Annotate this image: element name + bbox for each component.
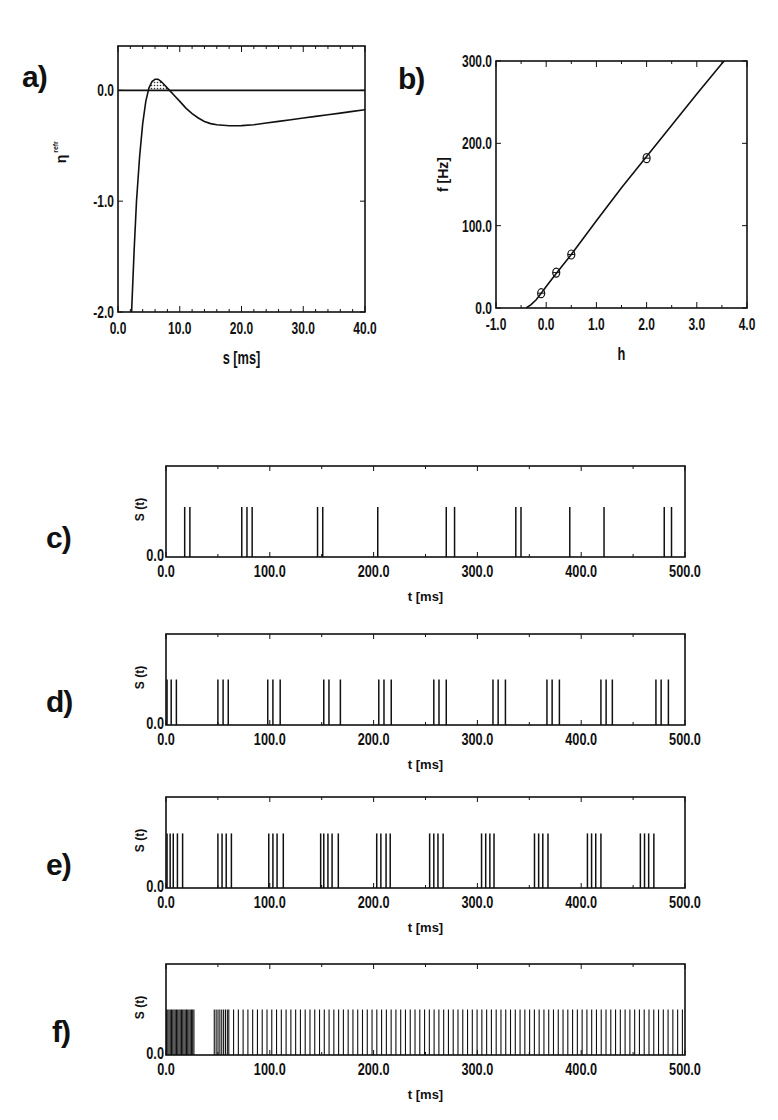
x-tick-label: 100.0 (254, 730, 286, 748)
x-tick-label: 300.0 (461, 730, 493, 748)
x-tick-label: 20.0 (230, 319, 253, 338)
spikes (167, 680, 668, 726)
x-axis-label: h (618, 344, 626, 364)
spike-train-e-chart: 0.0100.0200.0300.0400.0500.00.0t [ms]S (… (0, 786, 778, 936)
x-tick-label: 300.0 (461, 562, 493, 580)
y-axis-label: η (53, 155, 69, 164)
refractory-kernel-chart: 0.010.020.030.040.0-2.0-1.00.0s [ms]ηref… (0, 0, 390, 370)
x-tick-label: 200.0 (358, 1060, 390, 1078)
y-tick-label: 300.0 (462, 52, 492, 71)
y-tick-label: 100.0 (462, 217, 492, 236)
data-marker (538, 289, 545, 298)
plot-frame (496, 61, 747, 308)
y-axis-label-superscript: refr (52, 141, 59, 153)
x-tick-label: 0.0 (538, 315, 555, 334)
x-tick-label: 500.0 (669, 893, 701, 911)
y-tick-label: -2.0 (93, 303, 114, 322)
x-tick-label: 4.0 (739, 315, 756, 334)
panel-d: d) 0.0100.0200.0300.0400.0500.00.0t [ms]… (0, 623, 778, 773)
x-tick-label: 400.0 (565, 1060, 597, 1078)
plot-area (167, 833, 654, 888)
x-tick-label: 100.0 (254, 893, 286, 911)
panel-c: c) 0.0100.0200.0300.0400.0500.00.0t [ms]… (0, 455, 778, 605)
y-axis-label: S (t) (133, 996, 147, 1019)
plot-area (185, 507, 672, 557)
spikes (167, 1010, 683, 1056)
x-tick-label: 0.0 (157, 1060, 175, 1078)
x-tick-label: 500.0 (669, 562, 701, 580)
plot-area (167, 680, 668, 726)
spikes (167, 833, 654, 888)
data-line (132, 79, 365, 312)
y-tick-label: 200.0 (462, 134, 492, 153)
x-tick-label: 2.0 (638, 315, 655, 334)
x-tick-label: 3.0 (688, 315, 705, 334)
y-tick-label: 0.0 (97, 81, 114, 100)
spike-train-f-chart: 0.0100.0200.0300.0400.0500.00.0t [ms]S (… (0, 953, 778, 1103)
x-axis-label: s [ms] (223, 348, 261, 368)
spikes (185, 507, 672, 557)
y-tick-label: 0.0 (146, 546, 164, 564)
y-tick-label: 0.0 (146, 714, 164, 732)
panel-f: f) 0.0100.0200.0300.0400.0500.00.0t [ms]… (0, 953, 778, 1103)
x-tick-label: 400.0 (565, 893, 597, 911)
panel-b: b) -1.00.01.02.03.04.00.0100.0200.0300.0… (380, 0, 778, 380)
x-tick-label: 1.0 (588, 315, 605, 334)
gain-function-chart: -1.00.01.02.03.04.00.0100.0200.0300.0hf … (380, 0, 778, 380)
x-axis-label: t [ms] (408, 1087, 443, 1102)
x-tick-label: 0.0 (157, 893, 175, 911)
x-tick-label: 30.0 (292, 319, 315, 338)
y-axis-label: S (t) (133, 829, 147, 852)
spike-train-c-chart: 0.0100.0200.0300.0400.0500.00.0t [ms]S (… (0, 455, 778, 605)
y-axis-label: S (t) (133, 666, 147, 689)
spike-train-d-chart: 0.0100.0200.0300.0400.0500.00.0t [ms]S (… (0, 623, 778, 773)
x-axis-label: t [ms] (408, 920, 443, 935)
x-tick-label: 0.0 (157, 562, 175, 580)
plot-frame (166, 634, 685, 725)
data-line (526, 61, 724, 308)
plot-frame (166, 964, 685, 1055)
x-tick-label: 10.0 (168, 319, 191, 338)
x-tick-label: 200.0 (358, 893, 390, 911)
y-axis-label: S (t) (133, 498, 147, 521)
x-tick-label: 500.0 (669, 1060, 701, 1078)
x-tick-label: 200.0 (358, 562, 390, 580)
plot-frame (166, 797, 685, 888)
x-tick-label: 300.0 (461, 893, 493, 911)
x-tick-label: 0.0 (157, 730, 175, 748)
data-marker (568, 250, 575, 259)
x-tick-label: 400.0 (565, 562, 597, 580)
plot-area (118, 79, 365, 312)
x-tick-label: 100.0 (254, 1060, 286, 1078)
x-tick-label: -1.0 (486, 315, 507, 334)
x-tick-label: 500.0 (669, 730, 701, 748)
panel-a: a) 0.010.020.030.040.0-2.0-1.00.0s [ms]η… (0, 0, 390, 370)
x-axis-label: t [ms] (408, 757, 443, 772)
y-tick-label: 0.0 (475, 299, 492, 318)
y-tick-label: 0.0 (146, 877, 164, 895)
y-tick-label: 0.0 (146, 1044, 164, 1062)
data-marker (553, 268, 560, 277)
x-tick-label: 0.0 (110, 319, 127, 338)
x-axis-label: t [ms] (408, 589, 443, 604)
panel-e: e) 0.0100.0200.0300.0400.0500.00.0t [ms]… (0, 786, 778, 936)
x-tick-label: 100.0 (254, 562, 286, 580)
plot-area (167, 1010, 683, 1056)
x-tick-label: 300.0 (461, 1060, 493, 1078)
y-axis-label: f [Hz] (435, 157, 451, 192)
plot-area (526, 61, 724, 308)
x-tick-label: 200.0 (358, 730, 390, 748)
x-tick-label: 40.0 (353, 319, 376, 338)
data-marker (643, 154, 650, 163)
y-tick-label: -1.0 (93, 192, 114, 211)
x-tick-label: 400.0 (565, 730, 597, 748)
plot-frame (166, 466, 685, 557)
